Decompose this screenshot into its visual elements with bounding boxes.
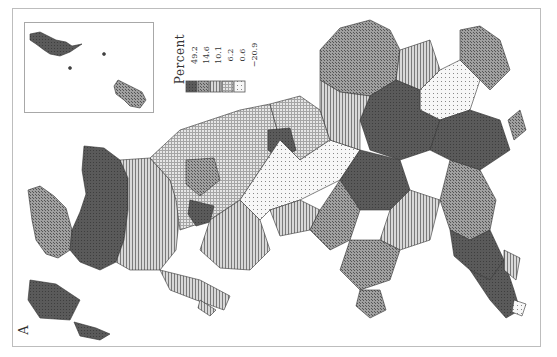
swatch-dark bbox=[186, 81, 197, 92]
swatch-vertical bbox=[210, 81, 221, 92]
legend-swatches bbox=[0, 0, 557, 357]
swatch-grid bbox=[222, 81, 233, 92]
swatch-crosshatch bbox=[198, 81, 209, 92]
panel-label: A bbox=[16, 320, 32, 340]
swatch-dots bbox=[234, 81, 245, 92]
